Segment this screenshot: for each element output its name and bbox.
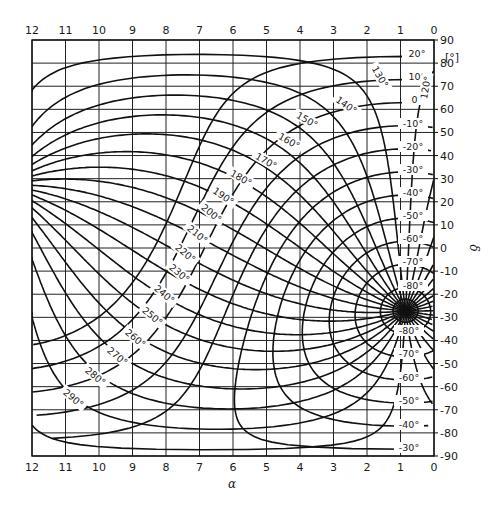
x-tick-bottom: 0	[431, 461, 438, 474]
latitude-label: -40°	[403, 187, 423, 198]
x-tick-bottom: 2	[364, 461, 371, 474]
y-tick: -10	[440, 265, 458, 278]
x-tick-bottom: 8	[163, 461, 170, 474]
latitude-label: -70°	[403, 256, 423, 267]
y-tick: -20	[440, 288, 458, 301]
longitude-label-group: 290°	[59, 384, 89, 412]
galactic-curve	[32, 95, 406, 311]
galactic-curve	[32, 257, 406, 410]
y-axis-unit: [°]	[445, 51, 459, 64]
x-tick-top: 10	[92, 24, 106, 37]
x-tick-top: 2	[364, 24, 371, 37]
latitude-label: -80°	[399, 325, 419, 336]
x-tick-bottom: 10	[92, 461, 106, 474]
longitude-label-group: 280°	[81, 362, 111, 390]
x-tick-bottom: 9	[129, 461, 136, 474]
longitude-label: 180°	[229, 167, 254, 188]
x-tick-bottom: 12	[25, 461, 39, 474]
latitude-label: -50°	[399, 395, 419, 406]
y-axis-title: δ	[467, 244, 481, 251]
y-tick: -80	[440, 427, 458, 440]
y-tick: 0	[440, 242, 447, 255]
longitude-label: 130°	[370, 64, 391, 89]
latitude-label: 20°	[409, 48, 426, 59]
x-tick-top: 7	[196, 24, 203, 37]
y-tick: -60	[440, 381, 458, 394]
y-tick: -50	[440, 358, 458, 371]
x-tick-top: 11	[59, 24, 73, 37]
x-tick-top: 9	[129, 24, 136, 37]
longitude-label-group: 190°	[208, 183, 239, 209]
x-tick-bottom: 3	[330, 461, 337, 474]
x-tick-top: 4	[297, 24, 304, 37]
longitude-label-group: 130°	[368, 61, 393, 92]
y-tick: -70	[440, 404, 458, 417]
x-tick-bottom: 1	[397, 461, 404, 474]
coordinate-chart: 20°10°0°-10°-20°-30°-40°-50°-60°-70°-80°…	[0, 0, 488, 505]
latitude-label: -60°	[403, 233, 423, 244]
y-tick: 90	[440, 34, 454, 47]
x-tick-bottom: 11	[59, 461, 73, 474]
x-tick-top: 3	[330, 24, 337, 37]
latitude-label: -10°	[403, 118, 423, 129]
y-tick: 30	[440, 173, 454, 186]
longitude-label-group: 250°	[138, 302, 168, 330]
longitude-label-group: 260°	[121, 324, 151, 352]
y-tick: 60	[440, 103, 454, 116]
latitude-label: -30°	[403, 164, 423, 175]
x-tick-bottom: 4	[297, 461, 304, 474]
longitude-label-group: 180°	[226, 166, 257, 191]
x-tick-top: 5	[263, 24, 270, 37]
x-tick-top: 8	[163, 24, 170, 37]
galactic-curve	[32, 54, 406, 310]
latitude-label: -30°	[399, 442, 419, 453]
x-tick-bottom: 5	[263, 461, 270, 474]
latitude-label: -20°	[403, 141, 423, 152]
latitude-label: -80°	[403, 280, 423, 291]
latitude-label: -40°	[399, 419, 419, 430]
y-tick: 70	[440, 80, 454, 93]
x-tick-top: 12	[25, 24, 39, 37]
y-tick: 20	[440, 196, 454, 209]
latitude-label: -50°	[403, 210, 423, 221]
latitude-label: -60°	[399, 372, 419, 383]
y-tick: -40	[440, 334, 458, 347]
grid-lines	[32, 40, 434, 456]
y-tick: -30	[440, 311, 458, 324]
x-axis-title: α	[228, 477, 236, 491]
y-tick: -90	[440, 450, 458, 463]
y-tick: 50	[440, 126, 454, 139]
latitude-label: -70°	[399, 348, 419, 359]
galactic-curve	[52, 149, 431, 439]
x-tick-top: 1	[397, 24, 404, 37]
x-tick-top: 6	[230, 24, 237, 37]
x-tick-bottom: 7	[196, 461, 203, 474]
x-tick-top: 0	[431, 24, 438, 37]
y-tick: 10	[440, 219, 454, 232]
longitude-label-group: 140°	[331, 92, 362, 118]
y-tick: 40	[440, 150, 454, 163]
galactic-curve	[32, 152, 406, 311]
x-tick-bottom: 6	[230, 461, 237, 474]
